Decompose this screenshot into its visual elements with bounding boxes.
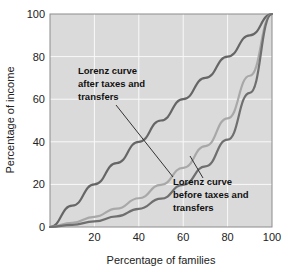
x-tick-label: 40 (133, 231, 145, 243)
y-tick-label: 60 (33, 93, 45, 105)
x-tick-label: 20 (88, 231, 100, 243)
x-axis-tick-labels: 20406080100 (88, 231, 281, 243)
annotation-line: transfers (78, 91, 119, 102)
x-tick-label: 60 (177, 231, 189, 243)
annotation-line: Lorenz curve (173, 176, 232, 187)
y-axis-tick-labels: 020406080100 (27, 8, 45, 233)
chart-canvas: 20406080100 020406080100 Lorenz curveaft… (0, 0, 291, 275)
y-axis-title: Percentage of income (4, 66, 16, 173)
annotation-line: after taxes and (78, 78, 145, 89)
lorenz-curve-figure: 20406080100 020406080100 Lorenz curveaft… (0, 0, 291, 275)
x-tick-label: 80 (221, 231, 233, 243)
y-tick-label: 100 (27, 8, 45, 20)
annotation-line: before taxes and (173, 189, 249, 200)
y-tick-label: 80 (33, 51, 45, 63)
y-tick-label: 40 (33, 136, 45, 148)
y-tick-label: 20 (33, 178, 45, 190)
annotation-line: Lorenz curve (78, 65, 137, 76)
x-axis-title: Percentage of families (107, 254, 216, 266)
annotation-line: transfers (173, 202, 214, 213)
y-tick-label: 0 (39, 221, 45, 233)
x-tick-label: 100 (263, 231, 281, 243)
